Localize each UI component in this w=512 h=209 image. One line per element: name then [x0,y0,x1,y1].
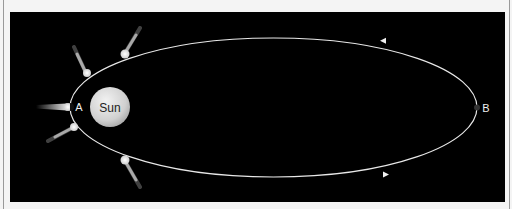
orbit-diagram: Sun A B [0,0,512,209]
sun-label: Sun [99,101,120,115]
point-b-label: B [482,102,489,114]
orbit-path [70,38,477,177]
comet-top [121,28,141,59]
point-a-label: A [75,101,83,113]
point-b-marker [474,105,480,111]
direction-arrow-bottom [383,172,389,178]
comet-bottom [121,156,141,188]
comet-upper-left [74,47,91,77]
comet-at-perihelion [36,103,74,111]
direction-arrow-top [380,38,386,44]
comet-lower-left [48,123,78,141]
